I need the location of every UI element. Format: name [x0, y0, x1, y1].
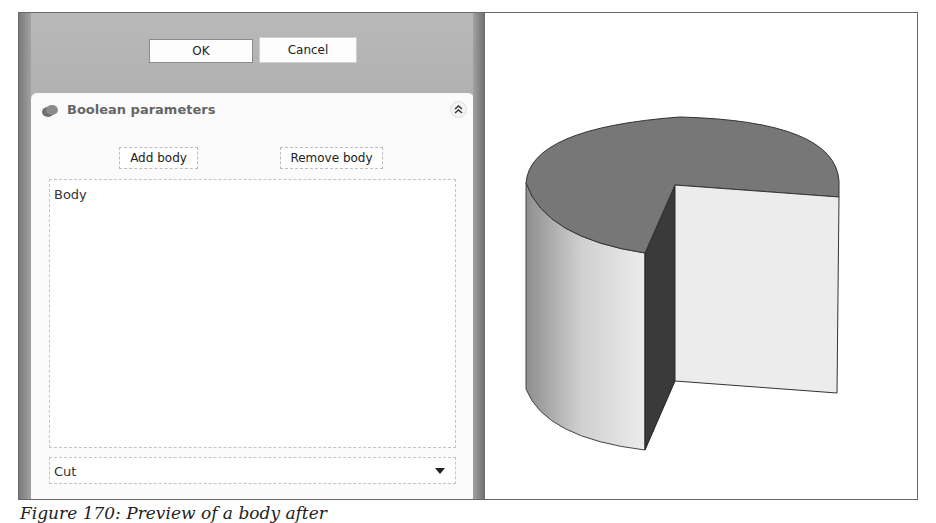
operation-select[interactable]: Cut — [49, 457, 456, 484]
cancel-button[interactable]: Cancel — [259, 37, 357, 63]
dropdown-arrow-icon — [435, 468, 445, 474]
boolean-parameters-panel: Boolean parameters Add body Remove body … — [31, 93, 474, 499]
collapse-button[interactable] — [450, 101, 467, 118]
application-window: OK Cancel Boolean parameters — [18, 12, 918, 500]
boolean-parts-icon — [41, 103, 59, 115]
body-list[interactable]: Body — [49, 179, 456, 448]
operation-value: Cut — [54, 464, 76, 479]
panel-title: Boolean parameters — [67, 102, 215, 117]
task-panel: OK Cancel Boolean parameters — [19, 13, 486, 499]
panel-header[interactable]: Boolean parameters — [31, 93, 474, 123]
ok-button[interactable]: OK — [149, 39, 253, 63]
list-item[interactable]: Body — [54, 187, 87, 202]
double-chevron-up-icon — [454, 105, 463, 114]
cut-cylinder-model — [485, 13, 917, 499]
add-body-button[interactable]: Add body — [119, 147, 198, 169]
figure-caption: Figure 170: Preview of a body after — [20, 503, 327, 523]
remove-body-button[interactable]: Remove body — [280, 147, 383, 169]
3d-viewport[interactable] — [485, 13, 917, 499]
